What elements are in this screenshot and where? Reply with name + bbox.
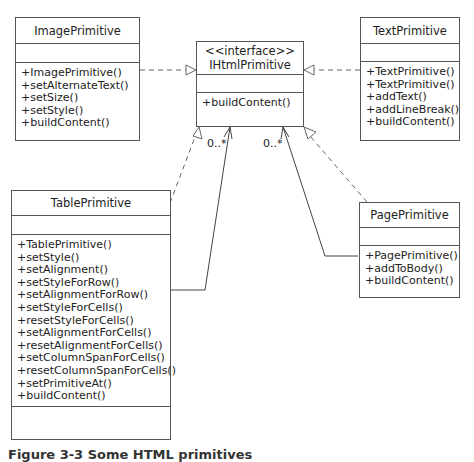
class-name: TextPrimitive xyxy=(361,18,459,44)
operation: +ImagePrimitive() xyxy=(21,67,139,80)
class-name-block: <<interface>> IHtmlPrimitive xyxy=(197,42,303,75)
operation: +setStyleForCells() xyxy=(17,302,170,315)
operation: +buildContent() xyxy=(202,97,303,110)
text-realization-arrowhead-icon xyxy=(304,65,314,75)
class-ihtml-primitive-interface: <<interface>> IHtmlPrimitive +buildConte… xyxy=(196,41,304,127)
operation: +buildContent() xyxy=(365,275,459,288)
class-page-primitive: PagePrimitive +PagePrimitive() +addToBod… xyxy=(359,202,460,298)
class-name: TablePrimitive xyxy=(12,191,170,216)
class-name: PagePrimitive xyxy=(360,203,459,228)
operation: +buildContent() xyxy=(366,116,459,129)
table-realization-line xyxy=(170,137,195,203)
class-table-primitive: TablePrimitive +TablePrimitive() +setSty… xyxy=(11,190,171,440)
table-association-line xyxy=(170,127,230,290)
operation: +TablePrimitive() xyxy=(17,239,170,252)
operation: +buildContent() xyxy=(17,390,170,403)
attributes-section xyxy=(12,216,170,235)
class-name: ImagePrimitive xyxy=(16,18,139,44)
class-text-primitive: TextPrimitive +TextPrimitive() +TextPrim… xyxy=(360,17,460,141)
class-image-primitive: ImagePrimitive +ImagePrimitive() +setAlt… xyxy=(15,17,140,141)
figure-caption: Figure 3-3 Some HTML primitives xyxy=(8,447,252,462)
operation: +resetColumnSpanForCells() xyxy=(17,365,170,378)
image-realization-arrowhead-icon xyxy=(186,65,196,75)
operation: +buildContent() xyxy=(21,117,139,130)
operation: +setAlignmentForCells() xyxy=(17,327,170,340)
operations-section: +TextPrimitive() +TextPrimitive() +addTe… xyxy=(361,62,459,129)
attributes-section xyxy=(361,44,459,62)
page-association-line xyxy=(283,127,358,256)
operations-section: +ImagePrimitive() +setAlternateText() +s… xyxy=(16,63,139,130)
class-name: IHtmlPrimitive xyxy=(197,58,303,72)
operation: +setSize() xyxy=(21,92,139,105)
operation: +setAlignment() xyxy=(17,264,170,277)
operations-section: +PagePrimitive() +addToBody() +buildCont… xyxy=(360,246,459,288)
table-realization-arrowhead-icon xyxy=(193,127,202,139)
attributes-section xyxy=(360,228,459,246)
operation: +PagePrimitive() xyxy=(365,250,459,263)
attributes-section xyxy=(16,44,139,63)
table-multiplicity-label: 0..* xyxy=(207,137,227,150)
operation: +TextPrimitive() xyxy=(366,66,459,79)
stereotype: <<interface>> xyxy=(197,44,303,58)
operations-section: +buildContent() xyxy=(197,93,303,110)
page-realization-arrowhead-icon xyxy=(304,127,316,139)
attributes-section xyxy=(197,75,303,93)
operation: +addText() xyxy=(366,91,459,104)
page-multiplicity-label: 0..* xyxy=(263,137,283,150)
page-realization-line xyxy=(310,136,367,202)
operations-section: +TablePrimitive() +setStyle() +setAlignm… xyxy=(12,235,170,407)
